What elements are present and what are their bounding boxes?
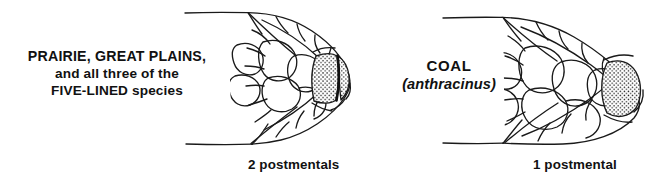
right-gular-div-1: [508, 36, 525, 51]
left-label-line-3: FIVE-LINED species: [8, 83, 226, 99]
right-supralabial-1: [604, 55, 633, 60]
right-label-line-2: (anthracinus): [383, 76, 515, 93]
left-panel-label: PRAIRIE, GREAT PLAINS, and all three of …: [8, 48, 226, 99]
right-chinshield-1: [519, 46, 564, 93]
right-gular-scale-2: [484, 89, 519, 126]
figure-root: PRAIRIE, GREAT PLAINS, and all three of …: [0, 0, 662, 187]
left-panel-caption: 2 postmentals: [248, 157, 339, 172]
right-lower-labial-div-1: [538, 123, 550, 141]
right-neck-line-top: [443, 17, 502, 18]
right-chinshield-2: [522, 88, 568, 129]
left-label-line-2: and all three of the: [8, 66, 226, 82]
right-postmental-scale-1: [602, 61, 641, 117]
right-panel-caption: 1 postmental: [533, 157, 617, 172]
right-gular-div-4: [504, 99, 523, 100]
right-panel-label: COAL (anthracinus): [383, 57, 515, 93]
right-label-line-1: COAL: [383, 57, 515, 75]
left-label-line-1: PRAIRIE, GREAT PLAINS,: [8, 48, 226, 65]
right-neck-line-bottom: [443, 143, 503, 144]
